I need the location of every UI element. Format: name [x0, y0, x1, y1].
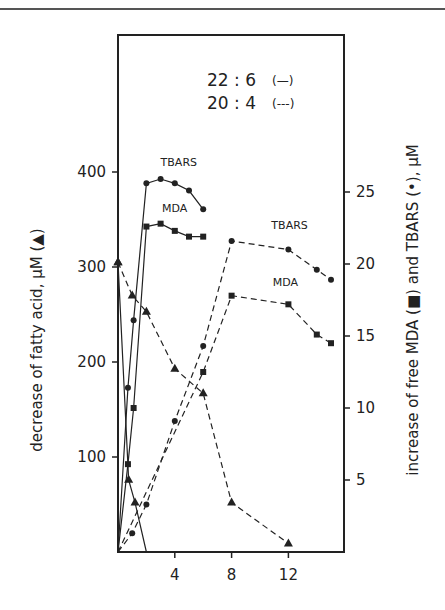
x-axis-ticks: 4812 [170, 552, 298, 584]
data-point-circle [285, 247, 291, 253]
data-point-square [158, 221, 164, 227]
data-point-square [172, 228, 178, 234]
y-left-tick-label: 400 [77, 163, 106, 181]
data-point-square [328, 340, 334, 346]
data-point-triangle [114, 257, 123, 265]
series-line-20-4-tbars [118, 241, 331, 552]
data-point-circle [328, 277, 334, 283]
x-tick-label: 8 [227, 566, 237, 584]
y-right-tick-label: 10 [356, 399, 375, 417]
series-20-4-mda [118, 293, 334, 552]
data-point-square [125, 461, 131, 467]
series-line-20-4-fatty-acid-decrease [118, 262, 288, 543]
data-point-square [200, 369, 206, 375]
line-chart: 4812 100200300400 510152025 TBARSMDATBAR… [0, 0, 445, 610]
legend-style-22-6: (—) [272, 74, 293, 88]
data-point-circle [158, 176, 164, 182]
data-point-square [186, 234, 192, 240]
data-point-circle [125, 385, 131, 391]
data-point-circle [314, 267, 320, 273]
x-tick-label: 12 [279, 566, 298, 584]
data-point-square [131, 405, 137, 411]
data-point-triangle [284, 538, 293, 546]
y-left-tick-label: 300 [77, 258, 106, 276]
data-point-circle [129, 530, 135, 536]
x-tick-label: 4 [170, 566, 180, 584]
data-point-circle [229, 238, 235, 244]
data-point-square [200, 234, 206, 240]
y-left-axis-ticks: 100200300400 [77, 163, 118, 466]
legend-label-20-4: 20 : 4 [207, 93, 256, 113]
series-annotation: TBARS [160, 156, 197, 169]
data-point-triangle [170, 364, 179, 372]
series-20-4-tbars [118, 238, 334, 552]
y-right-axis-ticks: 510152025 [344, 183, 375, 489]
data-point-triangle [227, 498, 236, 506]
y-right-axis-label: increase of free MDA (■) and TBARS (•), … [404, 144, 422, 475]
data-point-circle [186, 188, 192, 194]
series-annotation: TBARS [270, 219, 307, 232]
data-point-triangle [199, 388, 208, 396]
series-annotation: MDA [273, 276, 299, 289]
y-right-tick-label: 25 [356, 183, 375, 201]
data-point-square [285, 301, 291, 307]
series-22-6-tbars [118, 176, 206, 552]
annotations: TBARSMDATBARSMDA [160, 156, 308, 289]
data-point-circle [200, 343, 206, 349]
series-22-6-mda [118, 221, 206, 552]
data-point-circle [143, 501, 149, 507]
legend: 22 : 6 (—) 20 : 4 (---) [207, 70, 294, 113]
series-annotation: MDA [162, 202, 188, 215]
y-right-tick-label: 5 [356, 471, 366, 489]
y-right-tick-label: 15 [356, 327, 375, 345]
y-left-axis-label: decrease of fatty acid, µM (▲) [28, 228, 46, 451]
data-point-circle [143, 180, 149, 186]
data-point-square [143, 224, 149, 230]
series-line-20-4-mda [118, 296, 331, 552]
legend-style-20-4: (---) [272, 97, 294, 111]
data-point-circle [131, 317, 137, 323]
y-right-tick-label: 20 [356, 255, 375, 273]
data-point-circle [172, 180, 178, 186]
data-point-square [314, 332, 320, 338]
legend-label-22-6: 22 : 6 [207, 70, 256, 90]
data-point-triangle [131, 498, 140, 506]
data-point-circle [200, 206, 206, 212]
data-point-circle [172, 418, 178, 424]
y-left-tick-label: 100 [77, 448, 106, 466]
data-point-square [229, 293, 235, 299]
y-left-tick-label: 200 [77, 353, 106, 371]
